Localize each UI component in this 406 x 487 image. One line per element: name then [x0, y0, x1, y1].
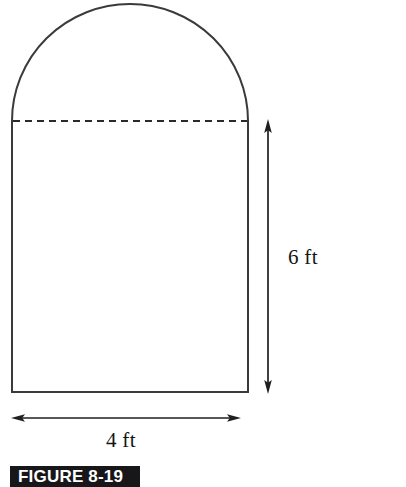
width-dimension-label: 4 ft: [106, 428, 136, 453]
figure-container: 6 ft 4 ft FIGURE 8-19: [0, 0, 406, 487]
figure-caption-banner: FIGURE 8-19: [10, 466, 140, 487]
height-dimension-label: 6 ft: [288, 245, 318, 270]
figure-caption-text: FIGURE 8-19: [18, 467, 123, 487]
arched-shape-outline: [12, 4, 248, 392]
horizontal-dimension-line: [11, 414, 241, 422]
vertical-dimension-line: [264, 119, 272, 394]
geometry-diagram: [0, 0, 406, 487]
